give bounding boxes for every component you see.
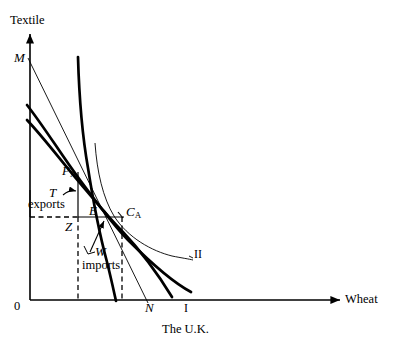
exports-arrow (63, 191, 76, 195)
pa-main: P (62, 163, 70, 178)
x-tick-label-i: I (184, 302, 188, 314)
point-label-z: Z (65, 220, 72, 233)
point-label-w: W (95, 245, 106, 258)
figure-caption: The U.K. (162, 323, 209, 336)
ca-subscript: A (135, 210, 142, 220)
economics-diagram: Textile Wheat 0 M N I PA T exports E CA … (0, 0, 393, 352)
pa-subscript: A (70, 169, 77, 179)
imports-label: imports (82, 259, 120, 272)
ca-main: C (126, 204, 135, 219)
plot-canvas (0, 0, 393, 352)
point-label-m: M (14, 51, 25, 64)
ii-leader-line (189, 256, 193, 258)
indifference-curve-II (95, 143, 193, 260)
price-line-label-pa: PA (62, 164, 76, 177)
w-angle-marker (84, 246, 95, 254)
indifference-curve-label: II (194, 248, 202, 260)
consumption-point-label-ca: CA (126, 205, 141, 218)
y-axis-label: Textile (10, 14, 45, 27)
point-label-e: E (89, 204, 97, 217)
origin-label: 0 (14, 300, 20, 313)
x-tick-label-n: N (145, 301, 154, 314)
exports-label: exports (28, 198, 65, 211)
x-axis-label: Wheat (345, 293, 378, 306)
